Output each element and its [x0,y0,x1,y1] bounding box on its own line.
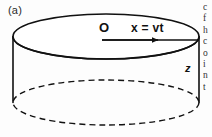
figure-panel-a: (a) O x = vt z c f h c o i n t [0,0,212,137]
clipped-text-line: h [203,25,212,36]
height-axis-label: z [185,63,191,74]
origin-marker-label: O [99,21,109,34]
clipped-text-line: o [203,48,212,59]
clipped-text-line: c [203,2,212,13]
clipped-text-line: t [203,82,212,93]
clipped-text-line: i [203,59,212,70]
bottom-ellipse-dashed [13,80,199,125]
clipped-body-text-column: c f h c o i n t [203,2,212,135]
panel-label: (a) [8,4,22,16]
motion-equation-label: x = vt [131,22,164,34]
clipped-text-line: n [203,70,212,81]
clipped-text-line: f [203,13,212,24]
clipped-text-line: c [203,36,212,47]
